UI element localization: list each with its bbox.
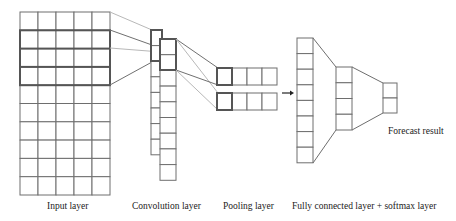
cell (74, 177, 92, 195)
cell (20, 158, 38, 176)
cell (160, 86, 176, 102)
fully-connected-layers (297, 38, 397, 163)
cell (38, 12, 56, 30)
convolution-layer-label: Convolution layer (132, 201, 201, 212)
arrow-icon (282, 91, 294, 96)
cell (92, 85, 110, 103)
cell (74, 85, 92, 103)
cell (160, 149, 176, 165)
cell (336, 67, 352, 83)
cell (74, 12, 92, 30)
cell (92, 140, 110, 158)
cell (20, 140, 38, 158)
cell (74, 122, 92, 140)
cell (38, 104, 56, 122)
cell (56, 177, 74, 195)
cell (74, 158, 92, 176)
cell (92, 49, 110, 67)
cell (56, 85, 74, 103)
cell (297, 38, 313, 54)
cell (262, 68, 277, 85)
cell (232, 68, 247, 85)
cell (20, 122, 38, 140)
cnn-diagram (0, 0, 456, 221)
cell (92, 67, 110, 85)
cell (160, 118, 176, 134)
cell (20, 30, 38, 48)
cell (74, 104, 92, 122)
cell (38, 30, 56, 48)
cell (56, 49, 74, 67)
cell (56, 67, 74, 85)
cell (297, 69, 313, 85)
cell (247, 68, 262, 85)
cell (92, 12, 110, 30)
cell (56, 122, 74, 140)
cell (92, 177, 110, 195)
cell (336, 83, 352, 99)
cell (297, 132, 313, 148)
cell (217, 68, 232, 85)
cell (74, 140, 92, 158)
cell (383, 83, 397, 98)
cell (160, 165, 176, 181)
cell (160, 55, 176, 71)
cell (262, 93, 277, 110)
forecast-result-label: Forecast result (388, 126, 444, 137)
cell (336, 99, 352, 115)
cell (297, 100, 313, 116)
cell (38, 122, 56, 140)
cell (20, 104, 38, 122)
cell (38, 85, 56, 103)
cell (20, 85, 38, 103)
cell (74, 30, 92, 48)
cell (92, 104, 110, 122)
pooling-layer-maps (217, 68, 277, 110)
conv-feature-map-2 (160, 39, 176, 180)
cell (38, 140, 56, 158)
cell (56, 104, 74, 122)
cell (38, 49, 56, 67)
cell (336, 114, 352, 130)
cell (232, 93, 247, 110)
cell (74, 49, 92, 67)
cell (383, 98, 397, 113)
conv-to-pool-connectors (176, 39, 218, 110)
cell (160, 102, 176, 118)
cell (56, 140, 74, 158)
cell (92, 158, 110, 176)
cell (297, 54, 313, 70)
cell (160, 70, 176, 86)
cell (38, 67, 56, 85)
cell (160, 133, 176, 149)
input-layer-grid (20, 12, 110, 195)
cell (297, 147, 313, 163)
cell (92, 122, 110, 140)
cell (56, 30, 74, 48)
cell (92, 30, 110, 48)
cell (217, 93, 232, 110)
cell (20, 177, 38, 195)
cell (38, 158, 56, 176)
cell (20, 49, 38, 67)
cell (247, 93, 262, 110)
pooling-layer-label: Pooling layer (223, 201, 274, 212)
cell (56, 12, 74, 30)
cell (297, 85, 313, 101)
cell (56, 158, 74, 176)
fully-connected-layer-label: Fully connected layer + softmax layer (292, 201, 436, 212)
cell (74, 67, 92, 85)
cell (160, 39, 176, 55)
cell (38, 177, 56, 195)
cell (20, 67, 38, 85)
cell (20, 12, 38, 30)
input-layer-label: Input layer (47, 201, 88, 212)
cell (297, 116, 313, 132)
